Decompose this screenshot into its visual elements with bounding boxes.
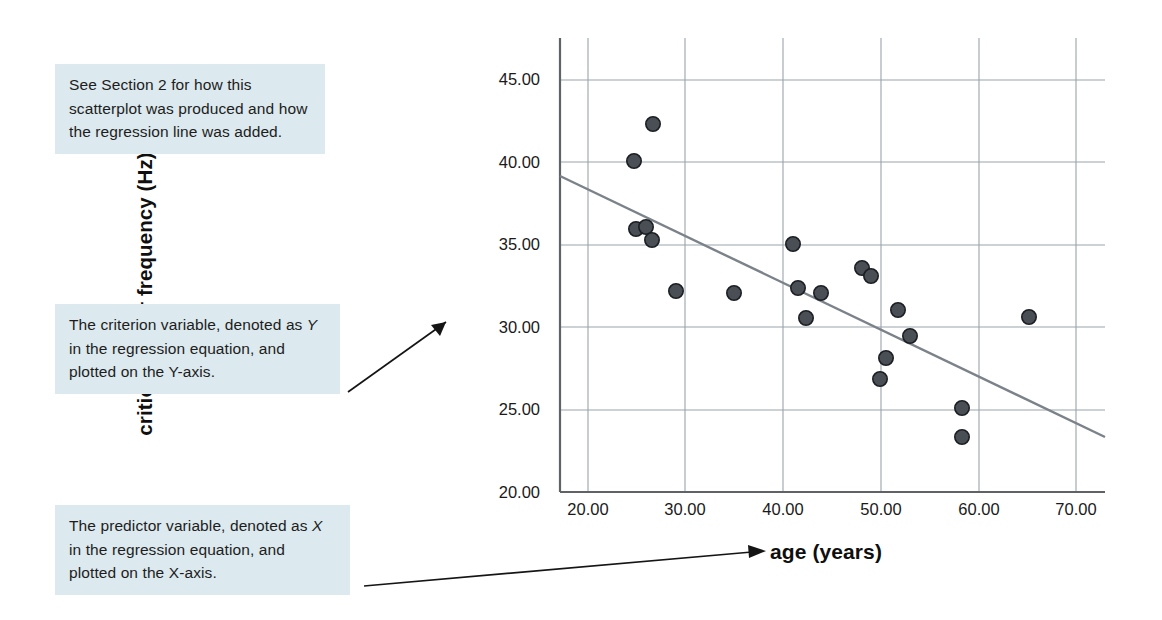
callout-criterion-variable: The criterion variable, denoted as Y in … xyxy=(55,304,340,394)
data-point xyxy=(864,269,878,283)
callout-scatterplot-note: See Section 2 for how this scatterplot w… xyxy=(55,64,325,154)
x-gridlines xyxy=(588,38,1076,492)
callout-criterion-text-2: in the regression equation, and plotted … xyxy=(69,340,285,381)
x-axis-title: age (years) xyxy=(770,540,882,564)
data-point xyxy=(669,284,683,298)
y-tick-label-20: 20.00 xyxy=(468,483,540,502)
arrow-to-y-axis xyxy=(348,322,446,392)
data-point xyxy=(727,286,741,300)
x-tick-label-40: 40.00 xyxy=(743,500,823,519)
regression-line xyxy=(560,176,1105,437)
callout-predictor-variable: The predictor variable, denoted as X in … xyxy=(55,505,350,595)
data-point xyxy=(639,220,653,234)
callout-criterion-text-1: The criterion variable, denoted as xyxy=(69,316,307,333)
arrowhead-y-axis xyxy=(431,322,446,336)
y-gridlines xyxy=(560,80,1105,410)
figure-page: critical flicker frequency (Hz) age (yea… xyxy=(0,0,1162,620)
x-tick-label-30: 30.00 xyxy=(645,500,725,519)
callout-predictor-variable-symbol: X xyxy=(312,517,322,534)
y-tick-label-30: 30.00 xyxy=(468,318,540,337)
arrow-to-x-axis xyxy=(364,552,752,586)
x-tick-label-60: 60.00 xyxy=(939,500,1019,519)
y-tick-label-25: 25.00 xyxy=(468,400,540,419)
data-point xyxy=(903,329,917,343)
callout-criterion-variable-symbol: Y xyxy=(307,316,317,333)
callout-note-text: See Section 2 for how this scatterplot w… xyxy=(69,76,307,140)
callout-predictor-text-1: The predictor variable, denoted as xyxy=(69,517,312,534)
y-tick-label-40: 40.00 xyxy=(468,153,540,172)
annotation-arrows xyxy=(348,322,752,586)
x-tick-label-70: 70.00 xyxy=(1036,500,1116,519)
data-point xyxy=(891,303,905,317)
data-point xyxy=(627,154,641,168)
arrowhead-x-axis xyxy=(748,545,766,558)
data-point xyxy=(786,237,800,251)
data-point xyxy=(645,233,659,247)
data-point xyxy=(814,286,828,300)
y-axis-title: critical flicker frequency (Hz) xyxy=(133,94,157,494)
x-tick-label-50: 50.00 xyxy=(841,500,921,519)
x-tick-label-20: 20.00 xyxy=(548,500,628,519)
data-point xyxy=(1022,310,1036,324)
data-point xyxy=(879,351,893,365)
scatter-points xyxy=(627,117,1036,444)
data-point xyxy=(955,401,969,415)
y-tick-label-45: 45.00 xyxy=(468,70,540,89)
data-point xyxy=(873,372,887,386)
data-point xyxy=(791,281,805,295)
data-point xyxy=(799,311,813,325)
y-tick-label-35: 35.00 xyxy=(468,235,540,254)
data-point xyxy=(955,430,969,444)
callout-predictor-text-2: in the regression equation, and plotted … xyxy=(69,541,285,582)
data-point xyxy=(646,117,660,131)
